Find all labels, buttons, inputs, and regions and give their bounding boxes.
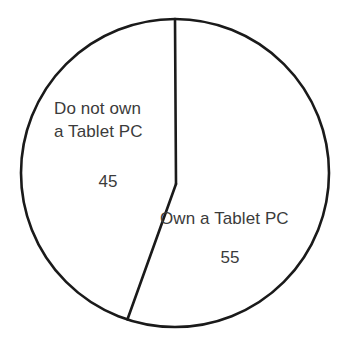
slice-divider-top [175, 19, 176, 184]
pie-chart-figure: Do not own a Tablet PC 45 Own a Tablet P… [0, 0, 348, 357]
slice-label-do-not-own-line2: a Tablet PC [54, 120, 166, 143]
slice-value-own: 55 [206, 246, 254, 269]
slice-label-do-not-own: Do not own a Tablet PC [54, 97, 166, 143]
slice-label-own-line1: Own a Tablet PC [160, 207, 306, 230]
pie-chart-graphic [0, 0, 348, 357]
slice-value-do-not-own: 45 [84, 170, 132, 193]
slice-label-do-not-own-line1: Do not own [54, 97, 166, 120]
slice-label-own: Own a Tablet PC [160, 207, 306, 230]
